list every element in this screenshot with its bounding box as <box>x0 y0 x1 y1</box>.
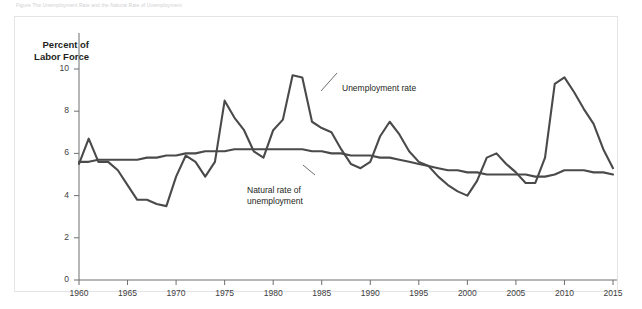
y-tick-label: 8 <box>47 105 69 115</box>
x-tick-label: 1965 <box>113 288 143 298</box>
figure-caption-text: Figure The Unemployment Rate and the Nat… <box>14 0 624 9</box>
y-tick-label: 0 <box>47 274 69 284</box>
x-tick-label: 2010 <box>549 288 579 298</box>
annotation-unemployment-rate: Unemployment rate <box>342 83 416 94</box>
chart-panel: Percent of Labor Force Unemployment rate… <box>14 16 618 292</box>
axis-ticks <box>74 69 613 285</box>
line-chart-svg <box>15 17 619 293</box>
x-tick-label: 1960 <box>64 288 94 298</box>
annotation-natural-rate: Natural rate of unemployment <box>247 185 303 207</box>
annotation-natural-rate-line2: unemployment <box>247 196 303 207</box>
figure-container: Figure The Unemployment Rate and the Nat… <box>0 0 642 309</box>
x-tick-label: 2015 <box>598 288 628 298</box>
x-tick-label: 2005 <box>501 288 531 298</box>
x-tick-label: 1990 <box>355 288 385 298</box>
figure-caption-strip: Figure The Unemployment Rate and the Nat… <box>14 0 624 14</box>
line-natural-rate-of-unemployment <box>79 149 613 176</box>
y-tick-label: 10 <box>47 63 69 73</box>
annotation-natural-rate-line1: Natural rate of <box>247 185 303 196</box>
line-unemployment-rate <box>79 75 613 206</box>
y-tick-label: 4 <box>47 190 69 200</box>
x-tick-label: 1980 <box>258 288 288 298</box>
x-tick-label: 1985 <box>307 288 337 298</box>
x-tick-label: 1970 <box>161 288 191 298</box>
annotation-leader-lines <box>303 73 337 175</box>
x-tick-label: 1975 <box>210 288 240 298</box>
y-tick-label: 6 <box>47 147 69 157</box>
x-tick-label: 1995 <box>404 288 434 298</box>
y-tick-label: 2 <box>47 232 69 242</box>
x-tick-label: 2000 <box>452 288 482 298</box>
